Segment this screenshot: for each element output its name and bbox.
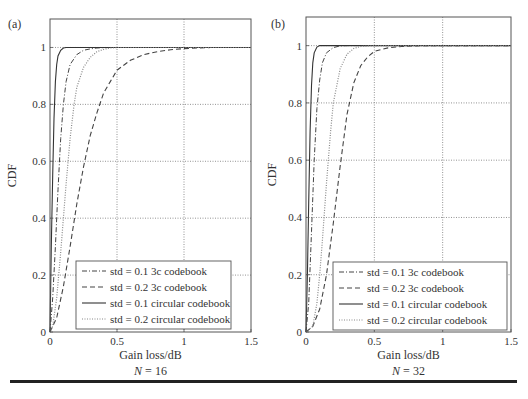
y-tick-label: 1 [297,40,303,52]
bottom-rule-divider [10,380,517,383]
caption-value-a: = 16 [145,364,167,378]
figure: (a) 00.511.500.20.40.60.81 CDF Gain loss… [0,0,528,399]
legend-entry-label: std = 0.2 3c codebook [367,282,464,294]
legend-entry-label: std = 0.2 circular codebook [367,314,488,326]
panel-label-a: (a) [8,17,21,31]
legend-entry-label: std = 0.1 circular codebook [367,298,488,310]
y-axis-label-b: CDF [265,163,279,187]
y-tick-label: 0 [297,326,303,338]
chart-panel-b: (b) 00.511.500.20.40.60.81 CDF Gain loss… [265,17,518,378]
y-tick-label: 0.4 [288,211,302,223]
caption-var-a: N [133,364,143,378]
y-tick-label: 0.6 [32,155,46,167]
caption-a: N = 16 [133,364,167,378]
x-axis-label-a: Gain loss/dB [119,348,181,362]
legend-entry-label: std = 0.1 circular codebook [110,297,231,309]
x-tick-label: 1 [440,335,446,347]
panel-label-b: (b) [271,17,285,31]
x-tick-label: 0 [47,335,53,347]
y-tick-label: 0.2 [32,269,46,281]
y-tick-label: 1 [41,41,47,53]
caption-b: N = 32 [391,364,425,378]
x-axis-label-b: Gain loss/dB [377,348,439,362]
caption-var-b: N [391,364,401,378]
y-tick-label: 0 [41,326,47,338]
legend-entry-label: std = 0.2 circular codebook [110,313,231,325]
legend-entry-label: std = 0.1 3c codebook [367,266,464,278]
x-tick-label: 0 [303,335,309,347]
y-tick-label: 0.6 [288,154,302,166]
x-tick-label: 1.5 [504,335,518,347]
x-tick-label: 1.5 [244,335,258,347]
caption-value-b: = 32 [403,364,425,378]
legend-entry-label: std = 0.1 3c codebook [110,265,207,277]
y-axis-label-a: CDF [5,164,19,188]
x-tick-label: 0.5 [367,335,381,347]
y-tick-label: 0.8 [288,97,302,109]
legend-a: std = 0.1 3c codebookstd = 0.2 3c codebo… [76,261,231,329]
y-tick-label: 0.4 [32,212,46,224]
legend-entry-label: std = 0.2 3c codebook [110,281,207,293]
x-tick-label: 1 [181,335,187,347]
y-tick-label: 0.2 [288,269,302,281]
y-tick-label: 0.8 [32,98,46,110]
legend-b: std = 0.1 3c codebookstd = 0.2 3c codebo… [333,262,507,330]
chart-panel-a: (a) 00.511.500.20.40.60.81 CDF Gain loss… [5,17,258,378]
x-tick-label: 0.5 [110,335,124,347]
